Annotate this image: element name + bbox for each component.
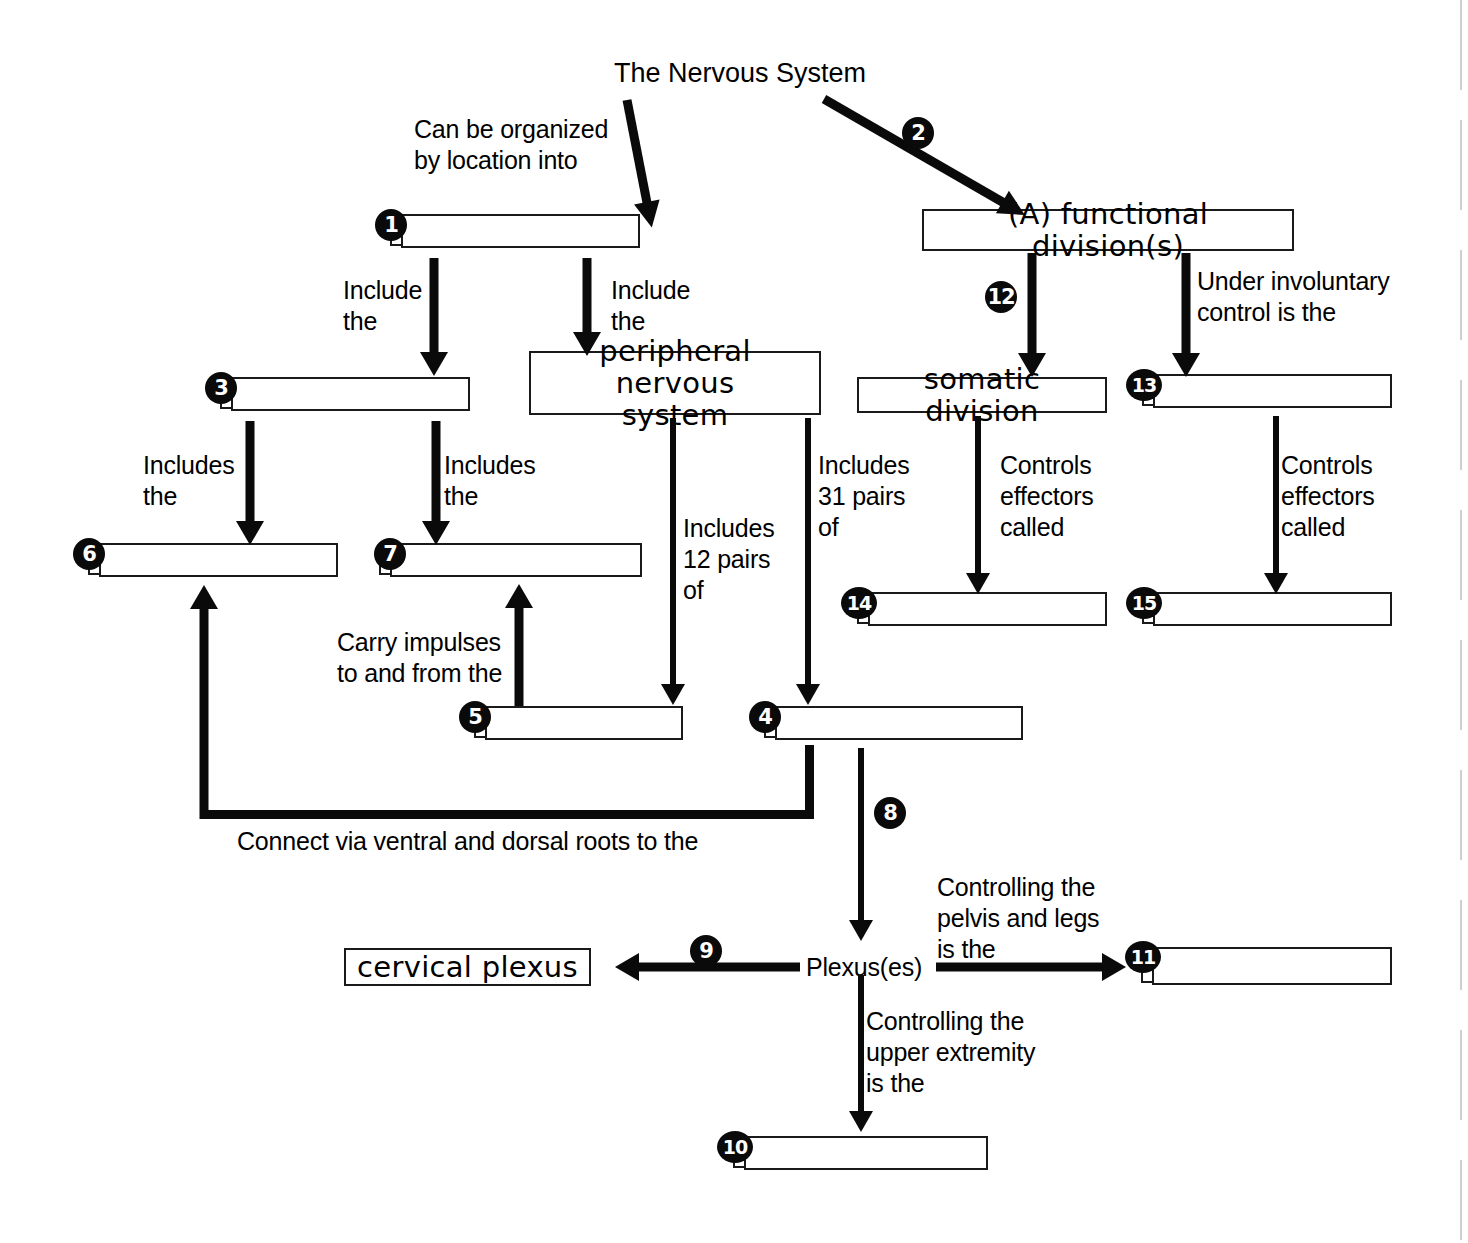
label-includes-the-right: Includes the: [444, 450, 554, 512]
arrow-blank-13-to-blank-15: [1258, 416, 1294, 594]
blank-box-4[interactable]: [775, 706, 1023, 740]
scan-edge-artifact: [1460, 1030, 1462, 1120]
arrow-somatic-division-to-blank-14: [960, 416, 996, 594]
label-includes-31-pairs: Includes 31 pairs of: [818, 450, 938, 543]
connector-blank-4-to-blank-6-vertical-right: [805, 745, 814, 819]
arrow-plexuses-to-blank-11: [936, 953, 1126, 981]
blank-box-10[interactable]: [744, 1136, 988, 1170]
blank-box-13[interactable]: [1153, 374, 1392, 408]
blank-number-11[interactable]: 11: [1125, 941, 1161, 973]
blank-box-11[interactable]: [1152, 947, 1392, 985]
blank-box-7[interactable]: [390, 543, 642, 577]
arrow-connector-blank-4-to-blank-6: [186, 585, 222, 819]
blank-box-15[interactable]: [1153, 592, 1392, 626]
label-connect-via-roots: Connect via ventral and dorsal roots to …: [237, 826, 837, 857]
blank-box-3[interactable]: [231, 377, 470, 411]
scan-edge-artifact: [1460, 0, 1462, 90]
arrow-number-2[interactable]: 2: [902, 117, 934, 149]
blank-number-3[interactable]: 3: [205, 372, 237, 404]
arrow-blank-1-to-peripheral-nervous-system: [569, 258, 605, 356]
blank-box-1[interactable]: [401, 214, 640, 248]
scan-edge-artifact: [1460, 380, 1462, 470]
arrow-peripheral-nervous-system-to-blank-4: [790, 418, 826, 708]
label-controls-effectors-called-autonomic: Controls effectors called: [1281, 450, 1411, 543]
label-controlling-upper-extremity: Controlling the upper extremity is the: [866, 1006, 1086, 1099]
arrow-title-to-functional-divisions: [818, 88, 1032, 227]
blank-box-6[interactable]: [99, 543, 338, 577]
blank-number-14[interactable]: 14: [841, 587, 877, 619]
blank-number-4[interactable]: 4: [749, 701, 781, 733]
connector-blank-4-to-blank-6-horizontal: [203, 810, 814, 819]
arrow-functional-divisions-to-somatic-division: [1014, 253, 1050, 377]
arrow-number-12[interactable]: 12: [985, 281, 1017, 313]
label-organized-by-location: Can be organized by location into: [414, 114, 624, 176]
blank-number-13[interactable]: 13: [1126, 369, 1162, 401]
blank-number-15[interactable]: 15: [1126, 587, 1162, 619]
blank-number-1[interactable]: 1: [375, 209, 407, 241]
scan-edge-artifact: [1460, 1160, 1462, 1240]
arrow-blank-5-to-blank-7: [501, 584, 537, 706]
blank-number-6[interactable]: 6: [73, 538, 105, 570]
filled-box-somatic-division: somatic division: [857, 377, 1107, 413]
scan-edge-artifact: [1460, 510, 1462, 600]
label-includes-12-pairs: Includes 12 pairs of: [683, 513, 803, 606]
arrow-number-9[interactable]: 9: [690, 935, 722, 967]
scan-edge-artifact: [1460, 120, 1462, 210]
filled-box-cervical-plexus: cervical plexus: [344, 948, 591, 986]
arrow-blank-4-to-plexuses: [843, 748, 879, 944]
scan-edge-artifact: [1460, 640, 1462, 730]
nervous-system-concept-map: The Nervous System Can be organized by l…: [0, 0, 1468, 1243]
arrow-blank-3-to-blank-6: [232, 421, 268, 545]
blank-number-10[interactable]: 10: [717, 1131, 753, 1163]
filled-box-cervical-plexus-text: cervical plexus: [357, 951, 578, 983]
diagram-title: The Nervous System: [614, 58, 866, 88]
label-under-involuntary-control: Under involuntary control is the: [1197, 266, 1427, 328]
scan-edge-artifact: [1460, 770, 1462, 860]
arrow-number-8[interactable]: 8: [874, 797, 906, 829]
arrow-blank-1-to-blank-3: [416, 258, 452, 376]
blank-number-5[interactable]: 5: [459, 701, 491, 733]
arrow-plexuses-to-blank-10: [843, 975, 879, 1135]
scan-edge-artifact: [1460, 900, 1462, 990]
label-include-the-right: Include the: [611, 275, 721, 337]
filled-box-functional-divisions: (A) functional division(s): [922, 209, 1294, 251]
label-controlling-pelvis-legs: Controlling the pelvis and legs is the: [937, 872, 1157, 965]
arrow-functional-divisions-to-blank-13: [1168, 253, 1204, 377]
arrow-blank-3-to-blank-7: [418, 421, 454, 545]
arrow-peripheral-nervous-system-to-blank-5: [655, 418, 691, 708]
scan-edge-artifact: [1460, 250, 1462, 340]
blank-box-5[interactable]: [485, 706, 683, 740]
blank-number-7[interactable]: 7: [374, 538, 406, 570]
filled-box-functional-divisions-text: (A) functional division(s): [932, 198, 1284, 262]
filled-box-peripheral-nervous-system: peripheral nervous system: [529, 351, 821, 415]
blank-box-14[interactable]: [868, 592, 1107, 626]
label-controls-effectors-called-somatic: Controls effectors called: [1000, 450, 1130, 543]
